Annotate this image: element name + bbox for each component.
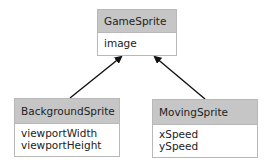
class-box-movingsprite: MovingSprite xSpeed ySpeed [152,99,258,158]
class-name: GameSprite [98,10,176,33]
class-name: BackgroundSprite [15,99,119,124]
arrow-moving-to-game [155,57,205,99]
attribute: xSpeed [159,128,257,140]
class-box-backgroundsprite: BackgroundSprite viewportWidth viewportH… [14,98,120,157]
arrow-background-to-game [70,57,121,98]
class-attributes: image [98,33,176,49]
attribute: viewportHeight [21,139,119,151]
class-box-gamesprite: GameSprite image [97,9,177,56]
class-attributes: viewportWidth viewportHeight [15,124,119,151]
attribute: image [104,37,176,49]
attribute: ySpeed [159,140,257,152]
class-attributes: xSpeed ySpeed [153,125,257,152]
class-name: MovingSprite [153,100,257,125]
attribute: viewportWidth [21,127,119,139]
